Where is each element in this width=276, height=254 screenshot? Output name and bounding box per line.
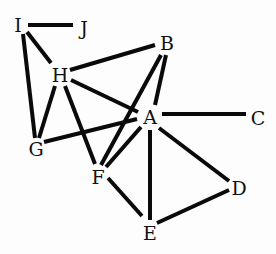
node-g: G — [28, 138, 43, 160]
edges-layer — [23, 25, 246, 223]
node-e: E — [143, 222, 157, 244]
edge-i-g — [23, 34, 35, 138]
node-h: H — [52, 64, 69, 86]
edge-i-h — [27, 32, 51, 63]
node-f: F — [91, 166, 104, 188]
edge-h-b — [70, 45, 155, 70]
edge-h-g — [39, 86, 55, 138]
graph-svg: IJHBACGFDE — [0, 0, 276, 254]
edge-h-f — [65, 86, 95, 164]
node-d: D — [231, 177, 246, 199]
graph-diagram: IJHBACGFDE — [0, 0, 276, 254]
edge-a-g — [44, 119, 137, 142]
node-i: I — [14, 14, 22, 36]
edge-f-e — [108, 178, 142, 216]
node-a: A — [142, 106, 157, 128]
edge-e-d — [157, 190, 229, 223]
edge-h-a — [71, 80, 138, 112]
node-j: J — [78, 17, 88, 39]
edge-a-d — [159, 128, 229, 181]
node-c: C — [251, 107, 266, 129]
node-b: B — [160, 32, 174, 54]
